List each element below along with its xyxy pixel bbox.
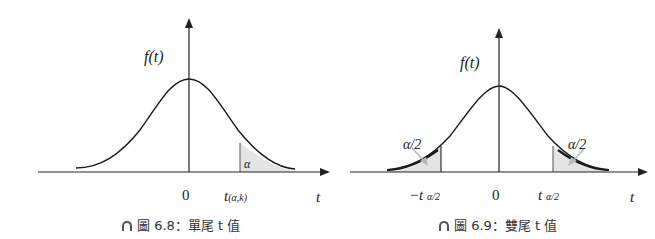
critical-value-label: t(α,k): [224, 188, 247, 205]
x-axis-label: t: [316, 189, 320, 206]
headphone-icon: [439, 221, 449, 231]
caption-number: 圖 6.9：: [454, 218, 505, 233]
y-axis-label: f(t): [144, 48, 164, 66]
caption-title: 雙尾 t 值: [505, 218, 557, 233]
right-critical-value-subscript: α/2: [546, 191, 559, 202]
x-axis-label: t: [630, 189, 634, 206]
area-label: α: [244, 157, 250, 172]
left-critical-value-label: −t α/2: [409, 187, 440, 204]
headphone-icon: [122, 221, 132, 231]
x-axis-arrow-icon: [638, 168, 648, 176]
figure-one-tailed: f(t) t 0 t(α,k) α 圖 6.8：單尾 t 值: [0, 0, 330, 239]
density-curve: [76, 79, 295, 169]
left-critical-value-main: −t: [409, 187, 423, 203]
left-critical-value-subscript: α/2: [427, 191, 440, 202]
critical-value-subscript: (α,k): [228, 192, 247, 203]
y-axis-arrow-icon: [185, 18, 193, 28]
x-axis-arrow-icon: [320, 168, 330, 176]
right-area-label: α/2: [568, 137, 586, 153]
figure-caption: 圖 6.8：單尾 t 值: [122, 215, 240, 234]
caption-number: 圖 6.8：: [137, 218, 188, 233]
figure-caption: 圖 6.9：雙尾 t 值: [439, 215, 557, 234]
origin-label: 0: [492, 187, 500, 204]
right-critical-value-label: t α/2: [538, 187, 559, 204]
figure-two-tailed: f(t) t 0 −t α/2 t α/2 α/2 α/2 圖 6.9：雙尾 t…: [330, 0, 655, 239]
caption-title: 單尾 t 值: [188, 218, 240, 233]
y-axis-arrow-icon: [495, 28, 503, 38]
right-critical-value-main: t: [538, 187, 542, 203]
one-tailed-diagram: [0, 0, 330, 239]
origin-label: 0: [182, 187, 190, 204]
y-axis-label: f(t): [460, 54, 480, 72]
left-area-label: α/2: [403, 137, 421, 153]
